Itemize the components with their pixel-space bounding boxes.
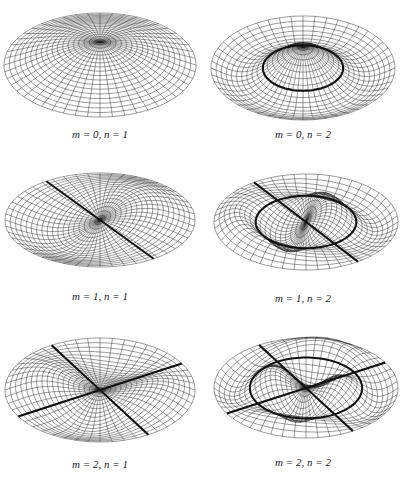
panel-m0-n2: m = 0, n = 2 bbox=[203, 0, 403, 160]
mesh-grid bbox=[4, 13, 196, 117]
caption-m2-n1: m = 2, n = 1 bbox=[0, 458, 200, 470]
membrane-surface-m1-n1 bbox=[0, 160, 200, 290]
caption-m0-n1: m = 0, n = 1 bbox=[0, 128, 200, 140]
mesh-grid bbox=[211, 16, 395, 120]
caption-m1-n2: m = 1, n = 2 bbox=[203, 292, 403, 304]
membrane-surface-m0-n2 bbox=[203, 0, 403, 130]
membrane-surface-m0-n1 bbox=[0, 0, 200, 130]
panel-m1-n1: m = 1, n = 1 bbox=[0, 160, 200, 320]
caption-m0-n2: m = 0, n = 2 bbox=[203, 128, 403, 140]
membrane-surface-m2-n1 bbox=[0, 320, 200, 460]
panel-m2-n2: m = 2, n = 2 bbox=[203, 320, 403, 480]
panel-m0-n1: m = 0, n = 1 bbox=[0, 0, 200, 160]
caption-m2-n2: m = 2, n = 2 bbox=[203, 456, 403, 468]
membrane-surface-m1-n2 bbox=[203, 160, 403, 290]
panel-m1-n2: m = 1, n = 2 bbox=[203, 160, 403, 320]
caption-m1-n1: m = 1, n = 1 bbox=[0, 290, 200, 302]
membrane-surface-m2-n2 bbox=[203, 320, 403, 460]
panel-m2-n1: m = 2, n = 1 bbox=[0, 320, 200, 480]
